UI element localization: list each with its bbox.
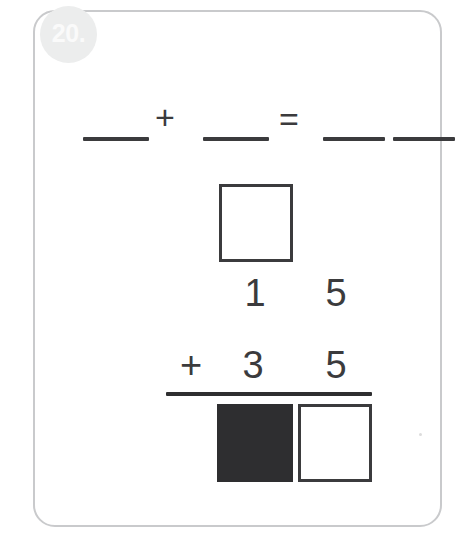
blank-addend-2[interactable] bbox=[203, 137, 269, 141]
carry-input-box[interactable] bbox=[219, 184, 293, 262]
blank-sum-ones[interactable] bbox=[393, 137, 455, 141]
problem-number-label: 20. bbox=[52, 21, 85, 48]
answer-box-tens[interactable] bbox=[217, 404, 293, 482]
plus-sign-icon: + bbox=[155, 100, 175, 134]
equals-sign-icon: = bbox=[279, 102, 299, 136]
blank-sum-tens[interactable] bbox=[323, 137, 385, 141]
addend1-tens-digit: 1 bbox=[235, 274, 275, 312]
problem-number-badge: 20. bbox=[40, 6, 97, 63]
sum-divider-line bbox=[166, 392, 372, 396]
answer-box-ones[interactable] bbox=[298, 404, 372, 482]
blank-addend-1[interactable] bbox=[83, 137, 149, 141]
horizontal-equation-row: + = bbox=[35, 100, 465, 148]
worksheet-problem-card: 20. + = 1 5 + 3 5 bbox=[33, 10, 442, 527]
addend2-tens-digit: 3 bbox=[233, 346, 273, 384]
plus-operator-symbol: + bbox=[171, 346, 211, 384]
addend2-ones-digit: 5 bbox=[316, 346, 356, 384]
addend1-ones-digit: 5 bbox=[316, 274, 356, 312]
page-speck-mark bbox=[419, 433, 422, 436]
